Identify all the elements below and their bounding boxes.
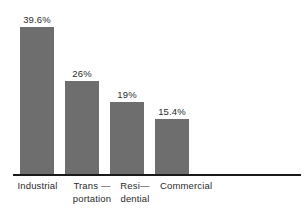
category-label-industrial: Industrial xyxy=(10,180,65,193)
category-label-commercial: Commercial xyxy=(160,180,232,193)
bar-industrial[interactable] xyxy=(20,27,54,175)
category-axis-labels: Industrial Trans — portation Resi— denti… xyxy=(0,180,305,217)
bar-group-industrial: 39.6% xyxy=(20,27,54,175)
category-label-commercial-line1: Commercial xyxy=(160,180,212,191)
bar-value-residential: 19% xyxy=(110,89,144,100)
bar-group-transportation: 26% xyxy=(65,81,99,175)
category-label-residential-line2: dential xyxy=(112,193,158,206)
bar-group-commercial: 15.4% xyxy=(155,119,189,175)
bar-value-commercial: 15.4% xyxy=(155,106,189,117)
bar-commercial[interactable] xyxy=(155,119,189,175)
bar-chart: 39.6% 26% 19% 15.4% Industrial Trans — p… xyxy=(0,0,305,217)
category-label-residential: Resi— dential xyxy=(112,180,158,205)
plot-area: 39.6% 26% 19% 15.4% xyxy=(0,0,305,175)
bar-residential[interactable] xyxy=(110,102,144,175)
x-axis-baseline xyxy=(13,174,301,176)
bar-group-residential: 19% xyxy=(110,102,144,175)
bar-transportation[interactable] xyxy=(65,81,99,175)
category-label-industrial-line1: Industrial xyxy=(17,180,57,191)
bar-value-transportation: 26% xyxy=(65,68,99,79)
category-label-transportation-line1: Trans — xyxy=(73,180,110,191)
category-label-residential-line1: Resi— xyxy=(120,180,149,191)
bar-value-industrial: 39.6% xyxy=(20,14,54,25)
